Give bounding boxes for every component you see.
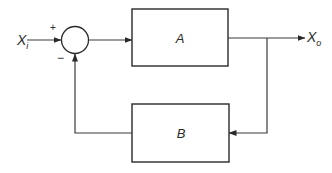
feedback-return-line — [75, 54, 132, 133]
plus-sign: + — [50, 22, 56, 33]
input-label: Xi — [16, 32, 29, 51]
forward-block-label: A — [175, 31, 185, 46]
feedback-block-label: B — [177, 126, 186, 141]
minus-sign: − — [57, 51, 64, 65]
block-diagram: Xi + − A Xo B — [0, 0, 332, 173]
output-label: Xo — [306, 29, 321, 48]
summing-junction — [62, 27, 89, 54]
feedback-takeoff-line — [229, 38, 267, 133]
